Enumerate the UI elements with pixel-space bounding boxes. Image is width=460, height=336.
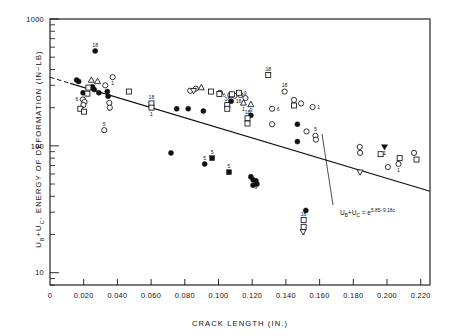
x-tick-label: 0.040 (107, 291, 127, 300)
data-point-filled-circle (254, 182, 259, 187)
data-point-filled-circle (295, 139, 300, 144)
data-point-open-square (414, 157, 419, 162)
data-point-label: 9 (249, 107, 252, 113)
x-tick-label: 0.180 (343, 291, 363, 300)
data-point-open-square (237, 90, 242, 95)
data-point-label: 1 (383, 150, 386, 156)
data-point-open-circle (310, 105, 315, 110)
data-point-filled-circle (96, 90, 101, 95)
data-point-filled-circle (76, 79, 81, 84)
data-point-filled-square (227, 170, 232, 175)
figure-canvas: 10001001000.0200.0400.0600.0800.1000.120… (0, 0, 460, 336)
data-point-filled-circle (202, 161, 207, 166)
data-point-open-square (229, 92, 234, 97)
x-tick-label: 0.220 (411, 291, 431, 300)
data-point-open-square (245, 116, 250, 121)
data-point-label: 18 (92, 42, 98, 48)
data-point-open-circle (357, 144, 362, 149)
data-point-label: 1 (150, 111, 153, 117)
data-point-filled-circle (168, 150, 173, 155)
data-point-open-circle (396, 161, 401, 166)
data-point-open-circle (282, 89, 287, 94)
series-filled-circle: 181859 (74, 42, 308, 213)
data-point-label: 6 (277, 106, 280, 112)
x-tick-label: 0.080 (175, 291, 195, 300)
data-point-open-square (82, 109, 87, 114)
data-point-label: 5 (228, 163, 231, 169)
data-point-label: 18 (224, 96, 230, 102)
data-point-open-square (85, 91, 90, 96)
data-point-open-square (126, 89, 131, 94)
plot-frame (50, 19, 430, 285)
y-axis-title-main: ENERGY OF DEFORMATION (IN−LB) (34, 50, 43, 213)
data-point-filled-circle (201, 109, 206, 114)
data-point-open-triangle (198, 84, 204, 89)
data-point-open-circle (103, 83, 108, 88)
scatter-plot-svg: 10001001000.0200.0400.0600.0800.1000.120… (0, 0, 460, 336)
data-point-filled-square (210, 156, 215, 161)
data-point-label: 9 (244, 90, 247, 96)
regression-line-extension (50, 77, 70, 83)
x-tick-label: 0.120 (242, 291, 262, 300)
data-point-label: 6 (75, 96, 78, 102)
x-axis-title: CRACK LENGTH (IN.) (50, 312, 430, 330)
data-point-label: 18 (149, 94, 155, 100)
data-point-open-circle (298, 101, 303, 106)
x-axis-title-text: CRACK LENGTH (IN.) (192, 319, 288, 328)
data-point-open-square (208, 89, 213, 94)
y-axis-title-plus-u: +U (34, 224, 43, 236)
data-point-label: 1 (111, 80, 114, 86)
data-point-label: 5 (103, 121, 106, 127)
x-tick-label: 0.200 (377, 291, 397, 300)
data-point-open-circle (385, 165, 390, 170)
data-point-filled-circle (186, 106, 191, 111)
data-point-open-down-triangle (300, 230, 306, 235)
data-point-open-square (301, 218, 306, 223)
series-filled-square: 55 (210, 149, 232, 175)
data-point-filled-circle (174, 106, 179, 111)
x-tick-label: 0.060 (141, 291, 161, 300)
data-point-open-circle (102, 128, 107, 133)
data-point-open-circle (110, 75, 115, 80)
x-tick-label: 0.160 (310, 291, 330, 300)
y-axis-title-sub-b: B (39, 236, 45, 241)
equation-leader-line (322, 134, 333, 205)
data-point-open-square (225, 106, 230, 111)
fit-equation: UB+UC = e5.85−9.18c (340, 208, 395, 218)
data-point-label: 5 (211, 149, 214, 155)
data-point-label: 18 (301, 211, 307, 217)
y-axis-title: UB+UC, ENERGY OF DEFORMATION (IN−LB) (27, 19, 45, 279)
data-point-filled-circle (295, 122, 300, 127)
data-point-open-circle (270, 106, 275, 111)
data-point-label: 18 (236, 98, 242, 104)
data-point-open-circle (357, 150, 362, 155)
data-point-open-square (86, 85, 91, 90)
y-axis-title-comma: , (34, 216, 43, 219)
data-point-open-square (292, 103, 297, 108)
data-point-open-circle (107, 105, 112, 110)
data-point-filled-circle (93, 48, 98, 53)
data-point-open-triangle (95, 78, 101, 83)
data-point-open-square (217, 92, 222, 97)
data-point-label: 5 (203, 155, 206, 161)
x-tick-label: 0.020 (74, 291, 94, 300)
data-point-open-circle (270, 122, 275, 127)
data-point-label: 18 (265, 66, 271, 72)
data-point-filled-circle (105, 89, 110, 94)
data-point-label: 18 (282, 82, 288, 88)
data-point-filled-circle (106, 94, 111, 99)
data-point-open-square (266, 72, 271, 77)
data-point-open-square (397, 156, 402, 161)
data-point-open-circle (411, 150, 416, 155)
data-point-label: 1 (317, 104, 320, 110)
data-point-open-down-triangle (357, 170, 363, 175)
y-axis-title-sub-c: C (39, 219, 45, 224)
data-point-open-circle (291, 97, 296, 102)
data-point-filled-circle (92, 87, 97, 92)
data-point-open-square (245, 121, 250, 126)
data-point-open-square (301, 224, 306, 229)
x-tick-label: 0.100 (209, 291, 229, 300)
data-point-label: 5 (314, 126, 317, 132)
data-point-label: 1 (397, 167, 400, 173)
data-point-open-circle (304, 129, 309, 134)
